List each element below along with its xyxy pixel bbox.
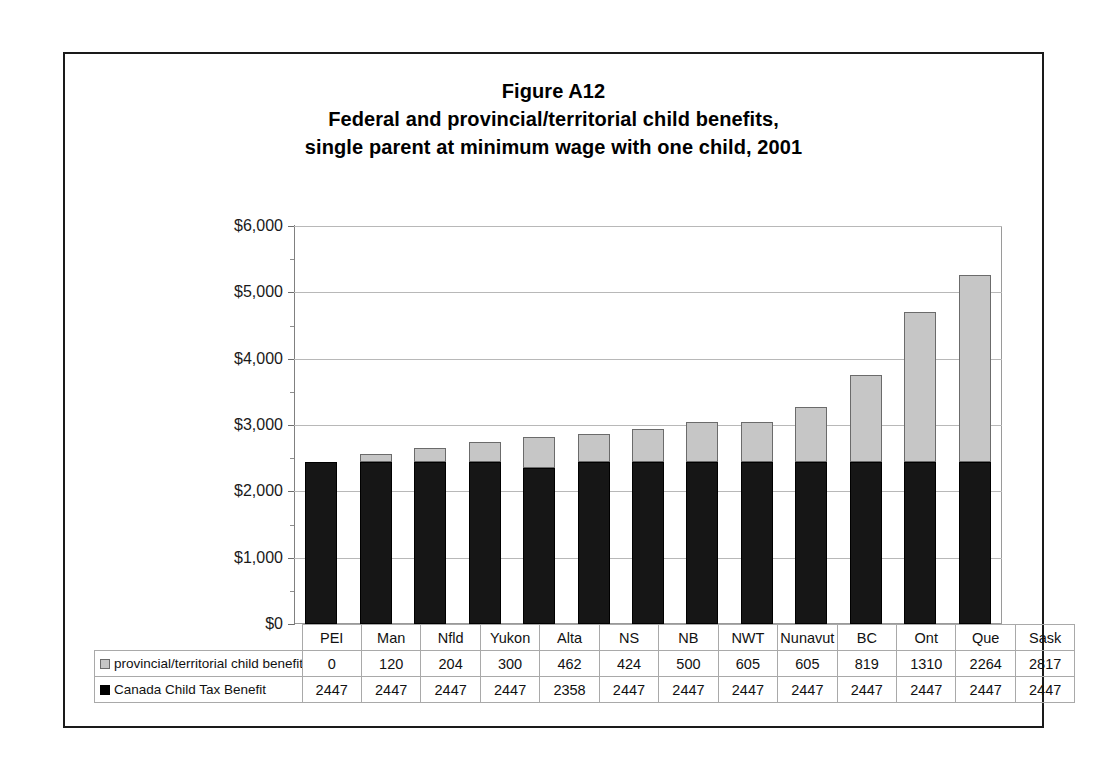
table-header-yukon: Yukon — [480, 625, 539, 651]
bar-segment-provincial-man[interactable] — [360, 454, 392, 462]
table-cell-federal-nfld: 2447 — [421, 677, 480, 703]
bar-segment-federal-alta[interactable] — [523, 468, 555, 624]
chart-data-table: PEIManNfldYukonAltaNSNBNWTNunavutBCOntQu… — [94, 624, 1075, 703]
table-header-man: Man — [361, 625, 420, 651]
y-axis-label-5000: $5,000 — [234, 283, 283, 301]
bar-alta[interactable] — [523, 437, 555, 624]
bar-segment-provincial-ns[interactable] — [578, 434, 610, 462]
table-header-nwt: NWT — [718, 625, 777, 651]
bar-yukon[interactable] — [469, 442, 501, 624]
y-axis-label-1000: $1,000 — [234, 549, 283, 567]
table-cell-federal-ns: 2447 — [599, 677, 658, 703]
table-cell-provincial-nb: 500 — [659, 651, 718, 677]
bar-slot-alta — [512, 226, 566, 624]
bar-slot-man — [348, 226, 402, 624]
bar-segment-provincial-ont[interactable] — [850, 375, 882, 462]
bar-nb[interactable] — [632, 429, 664, 624]
table-row-provincial: provincial/territorial child benefits012… — [95, 651, 1075, 677]
table-legend-corner — [95, 625, 303, 651]
bar-segment-federal-que[interactable] — [904, 462, 936, 624]
bar-slot-sask — [948, 226, 1002, 624]
table-cell-provincial-sask: 2817 — [1015, 651, 1074, 677]
bar-slot-ont — [839, 226, 893, 624]
y-axis-label-4000: $4,000 — [234, 350, 283, 368]
table-cell-federal-man: 2447 — [361, 677, 420, 703]
table-header-pei: PEI — [302, 625, 361, 651]
table-header-nunavut: Nunavut — [778, 625, 837, 651]
legend-swatch-federal-icon — [100, 685, 110, 695]
bar-pei[interactable] — [305, 462, 337, 624]
bar-segment-federal-yukon[interactable] — [469, 462, 501, 624]
bar-nwt[interactable] — [686, 422, 718, 624]
bar-slot-nb — [621, 226, 675, 624]
table-cell-provincial-ns: 424 — [599, 651, 658, 677]
bar-ont[interactable] — [850, 375, 882, 624]
table-cell-federal-alta: 2358 — [540, 677, 599, 703]
bar-slot-nfld — [403, 226, 457, 624]
y-axis-label-3000: $3,000 — [234, 416, 283, 434]
bar-slot-nwt — [675, 226, 729, 624]
table-cell-provincial-yukon: 300 — [480, 651, 539, 677]
figure-number: Figure A12 — [65, 78, 1042, 105]
table-row-federal: Canada Child Tax Benefit2447244724472447… — [95, 677, 1075, 703]
bar-segment-federal-nfld[interactable] — [414, 462, 446, 624]
bar-sask[interactable] — [959, 275, 991, 624]
table-cell-federal-nunavut: 2447 — [778, 677, 837, 703]
table-header-alta: Alta — [540, 625, 599, 651]
y-axis-label-6000: $6,000 — [234, 217, 283, 235]
bar-segment-federal-sask[interactable] — [959, 462, 991, 624]
bar-segment-provincial-yukon[interactable] — [469, 442, 501, 462]
bar-nfld[interactable] — [414, 448, 446, 624]
table-cell-provincial-man: 120 — [361, 651, 420, 677]
table-header-que: Que — [956, 625, 1015, 651]
table-cell-federal-yukon: 2447 — [480, 677, 539, 703]
legend-item-federal[interactable]: Canada Child Tax Benefit — [95, 677, 303, 703]
bar-ns[interactable] — [578, 434, 610, 624]
table-cell-federal-nb: 2447 — [659, 677, 718, 703]
table-cell-provincial-alta: 462 — [540, 651, 599, 677]
bar-segment-provincial-nfld[interactable] — [414, 448, 446, 462]
table-header-nb: NB — [659, 625, 718, 651]
chart-plot-area: $0$1,000$2,000$3,000$4,000$5,000$6,000 — [294, 226, 1002, 624]
bar-segment-federal-man[interactable] — [360, 462, 392, 624]
figure-frame: Figure A12 Federal and provincial/territ… — [63, 52, 1044, 728]
legend-item-provincial[interactable]: provincial/territorial child benefits — [95, 651, 303, 677]
table-header-sask: Sask — [1015, 625, 1074, 651]
bar-segment-provincial-bc[interactable] — [795, 407, 827, 461]
bar-segment-provincial-nwt[interactable] — [686, 422, 718, 462]
table-cell-provincial-bc: 819 — [837, 651, 896, 677]
bar-segment-federal-bc[interactable] — [795, 462, 827, 624]
table-cell-provincial-pei: 0 — [302, 651, 361, 677]
bar-segment-federal-nwt[interactable] — [686, 462, 718, 624]
table-cell-provincial-ont: 1310 — [897, 651, 956, 677]
bar-slot-ns — [566, 226, 620, 624]
bar-segment-provincial-nb[interactable] — [632, 429, 664, 462]
bar-segment-provincial-alta[interactable] — [523, 437, 555, 468]
bar-bc[interactable] — [795, 407, 827, 624]
legend-swatch-provincial-icon — [100, 659, 110, 669]
bar-slot-pei — [294, 226, 348, 624]
bar-segment-federal-nunavut[interactable] — [741, 462, 773, 624]
bar-segment-federal-nb[interactable] — [632, 462, 664, 624]
bar-man[interactable] — [360, 454, 392, 624]
bar-segment-federal-ns[interactable] — [578, 462, 610, 624]
figure-title-line-1: Federal and provincial/territorial child… — [65, 105, 1042, 133]
bar-slot-bc — [784, 226, 838, 624]
table-cell-provincial-nwt: 605 — [718, 651, 777, 677]
table-header-nfld: Nfld — [421, 625, 480, 651]
legend-label-federal: Canada Child Tax Benefit — [114, 682, 266, 697]
bar-segment-federal-pei[interactable] — [305, 462, 337, 624]
y-axis-label-2000: $2,000 — [234, 482, 283, 500]
figure-title-block: Figure A12 Federal and provincial/territ… — [65, 78, 1042, 161]
legend-label-provincial: provincial/territorial child benefits — [114, 656, 302, 671]
bar-slot-yukon — [457, 226, 511, 624]
bars-layer — [294, 226, 1002, 624]
bar-nunavut[interactable] — [741, 422, 773, 624]
table-cell-federal-ont: 2447 — [897, 677, 956, 703]
bar-que[interactable] — [904, 312, 936, 624]
bar-slot-que — [893, 226, 947, 624]
bar-segment-provincial-sask[interactable] — [959, 275, 991, 462]
bar-segment-provincial-nunavut[interactable] — [741, 422, 773, 462]
bar-segment-provincial-que[interactable] — [904, 312, 936, 462]
bar-segment-federal-ont[interactable] — [850, 462, 882, 624]
